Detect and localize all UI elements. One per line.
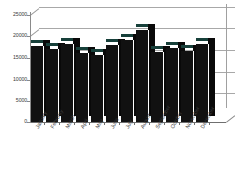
y-tick-20000 [27, 36, 31, 37]
bar-top-face [46, 43, 58, 46]
bar-front-face [136, 30, 149, 122]
bar-front-face [91, 55, 104, 122]
back-wall-right-edge [226, 4, 227, 108]
bar-top-face [196, 38, 208, 41]
y-tick-0 [27, 122, 31, 123]
y-axis-label-25000: 25000 [1, 12, 27, 17]
depth-line-25000 [30, 8, 39, 16]
bar-top-face [121, 34, 133, 37]
bar-front-face [76, 53, 89, 122]
x-tick-february [59, 122, 60, 125]
x-tick-november [194, 122, 195, 125]
bar-top-face [91, 49, 103, 52]
bar-top-face [151, 46, 163, 49]
y-axis-label-20000: 20000 [1, 33, 27, 38]
y-tick-25000 [27, 15, 31, 16]
bar-top-face [31, 40, 43, 43]
bar-front-face [121, 40, 134, 122]
gridline-25000 [39, 7, 235, 8]
x-tick-april [89, 122, 90, 125]
x-tick-june [119, 122, 120, 125]
bar-chart: 25000 20000 15000 10000 5000 0 JanuaryFe… [0, 0, 235, 175]
bar-top-face [76, 47, 88, 50]
x-tick-may [104, 122, 105, 125]
x-axis-label-july: July [125, 119, 134, 129]
bar-top-face [106, 39, 118, 42]
floor-depth-edge [226, 115, 235, 123]
x-tick-august [149, 122, 150, 125]
bar-top-face [61, 38, 73, 41]
y-axis-label-5000: 5000 [1, 98, 27, 103]
bar-top-face [136, 24, 148, 27]
y-axis-label-15000: 15000 [1, 55, 27, 60]
y-axis-label-0: 0 [1, 119, 27, 124]
x-tick-january [44, 122, 45, 125]
bar-top-face [166, 42, 178, 45]
bar-top-face [181, 45, 193, 48]
bar-front-face [106, 45, 119, 122]
x-tick-march [74, 122, 75, 125]
x-tick-october [179, 122, 180, 125]
plot-area: 25000 20000 15000 10000 5000 0 JanuaryFe… [0, 0, 235, 175]
x-tick-december [209, 122, 210, 125]
y-axis-label-10000: 10000 [1, 77, 27, 82]
x-tick-september [164, 122, 165, 125]
depth-line-20000 [30, 29, 39, 37]
x-tick-july [134, 122, 135, 125]
